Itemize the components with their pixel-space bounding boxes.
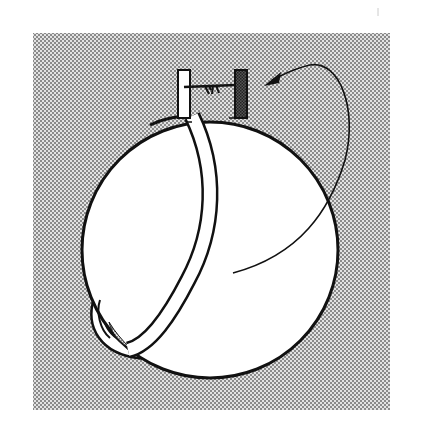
white-post xyxy=(178,70,190,118)
figure-illustration xyxy=(0,0,421,435)
dark-hatched-post xyxy=(235,70,247,118)
